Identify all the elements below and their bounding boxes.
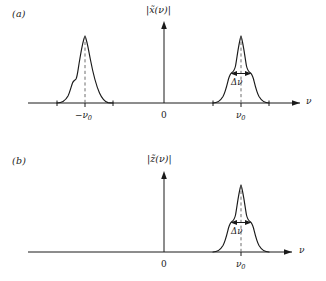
panel-a-bandwidth-label: Δν	[231, 77, 242, 87]
panel-b-y-axis-arrowhead	[161, 171, 167, 179]
panel-b-x-axis-label: ν	[299, 245, 304, 255]
panel-a-bandwidth-arrowhead-left	[231, 71, 238, 76]
panel-b-tick-label-nu0-subscript: 0	[241, 263, 245, 271]
panel-b-bandwidth-arrowhead-right	[245, 220, 252, 225]
panel-b-x-axis-arrowhead	[284, 249, 292, 255]
figure-canvas	[0, 0, 326, 281]
panel-a-y-axis-arrowhead	[161, 21, 167, 29]
panel-a-x-axis-label: ν	[306, 96, 311, 106]
panel-a-tick-label-negative-nu0-base: −ν	[75, 110, 88, 120]
panel-b-curve-positive-band	[213, 185, 269, 252]
panel-b-tick-label-nu0: ν0	[236, 259, 246, 269]
panel-b-bandwidth-label: Δν	[231, 226, 242, 236]
panel-a-tick-label-negative-nu0: −ν0	[75, 110, 92, 120]
panel-a-curve-negative-band	[57, 36, 113, 103]
panel-a-origin-label: 0	[161, 110, 167, 120]
panel-b-y-axis-label-bar-close: |	[168, 153, 171, 164]
panel-a-tick-label-nu0: ν0	[236, 110, 246, 120]
figure-root: (a) (b)	[0, 0, 326, 281]
panel-a-bandwidth-arrowhead-right	[245, 71, 252, 76]
panel-a-curve-positive-band	[213, 36, 269, 103]
panel-b-y-axis-label: |z̃(ν)|	[147, 153, 172, 164]
panel-b-origin-label: 0	[161, 259, 167, 269]
panel-a-tick-label-nu0-subscript: 0	[241, 114, 245, 122]
panel-a-plot	[28, 21, 300, 107]
panel-b-y-axis-label-argument: (ν)	[155, 153, 168, 164]
panel-a-x-axis-arrowhead	[292, 100, 300, 106]
panel-a-y-axis-label: |x̃(ν)|	[146, 4, 171, 15]
panel-b-plot	[28, 171, 292, 256]
panel-b-bandwidth-arrowhead-left	[231, 220, 238, 225]
panel-a-y-axis-label-argument: (ν)	[155, 4, 168, 15]
panel-a-tick-label-negative-nu0-subscript: 0	[88, 114, 92, 122]
panel-a-y-axis-label-bar-close: |	[168, 4, 171, 15]
